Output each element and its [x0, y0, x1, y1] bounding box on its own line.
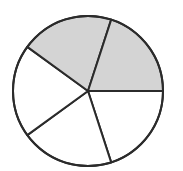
pie-circle	[0, 0, 183, 171]
fraction-circle-diagram	[0, 0, 183, 171]
